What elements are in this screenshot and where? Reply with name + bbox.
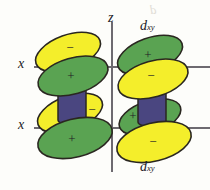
upper-right-orbital: [112, 27, 192, 106]
sign-upper-left-negative: −: [66, 40, 73, 55]
sign-lower-left-positive: +: [68, 131, 75, 146]
orbital-label-top-subscript: xy: [147, 22, 155, 32]
orbital-label-bottom-subscript: xy: [147, 163, 155, 173]
upper-left-orbital: [30, 24, 112, 103]
sign-upper-left-positive: +: [67, 68, 74, 83]
orbital-diagram-svg: − + + − − + + −: [0, 0, 210, 190]
x-axis-label-lower: x: [18, 118, 24, 132]
figure-canvas: − + + − − + + − z x x dxy dxy d: [0, 0, 210, 190]
z-axis-label: z: [108, 11, 113, 25]
x-axis-label-upper: x: [18, 57, 24, 71]
orbital-label-top-base: d: [140, 18, 147, 33]
orbital-label-top: dxy: [140, 19, 155, 33]
sign-upper-right-negative: −: [147, 68, 154, 83]
sign-upper-right-positive: +: [144, 47, 151, 62]
sign-lower-right-positive: +: [129, 108, 136, 123]
sign-lower-left-negative: −: [88, 102, 95, 117]
orbital-label-bottom-base: d: [140, 159, 147, 174]
sign-lower-right-negative: −: [149, 134, 156, 149]
orbital-label-bottom: dxy: [140, 160, 155, 174]
